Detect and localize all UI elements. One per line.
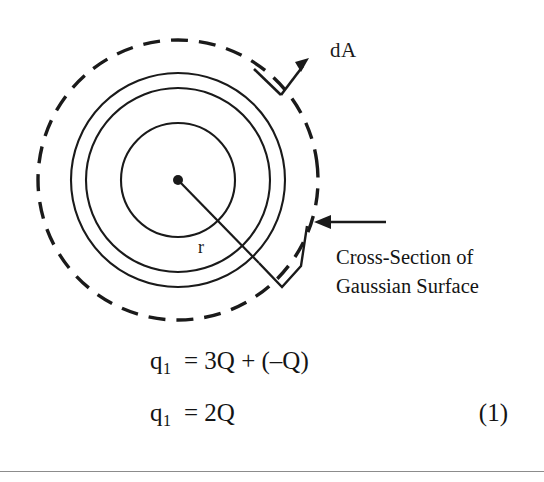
equation-q1-result-body: q1= 2Q xyxy=(150,400,235,429)
callout-line-1: Cross-Section of xyxy=(336,243,479,272)
equation-q1-expanded-rhs: = 3Q + (–Q) xyxy=(171,347,309,374)
equation-q1-result-variable: q xyxy=(150,399,163,426)
figure-page: dA r Cross-Section of Gaussian Surface q… xyxy=(0,0,544,482)
equation-q1-result-number: (1) xyxy=(479,400,508,425)
da-arrow-shaft xyxy=(281,66,303,95)
da-arrow-head xyxy=(295,58,309,72)
radius-line xyxy=(178,180,259,263)
equation-q1-result: q1= 2Q (1) xyxy=(0,400,544,452)
equation-q1-expanded: q1= 3Q + (–Q) xyxy=(0,348,544,400)
equation-q1-expanded-subscript: 1 xyxy=(163,360,172,377)
callout-arrow-head xyxy=(314,215,331,229)
page-bottom-rule xyxy=(0,471,544,472)
gaussian-surface-callout: Cross-Section of Gaussian Surface xyxy=(336,243,479,301)
equation-q1-result-subscript: 1 xyxy=(163,412,172,429)
callout-line-2: Gaussian Surface xyxy=(336,272,479,301)
equation-q1-result-rhs: = 2Q xyxy=(171,399,235,426)
da-label: dA xyxy=(330,40,357,61)
radius-label: r xyxy=(198,238,204,256)
equation-block: q1= 3Q + (–Q) q1= 2Q (1) xyxy=(0,348,544,452)
equation-q1-expanded-body: q1= 3Q + (–Q) xyxy=(150,348,309,377)
equation-q1-expanded-variable: q xyxy=(150,347,163,374)
callout-leader-line xyxy=(259,226,307,287)
